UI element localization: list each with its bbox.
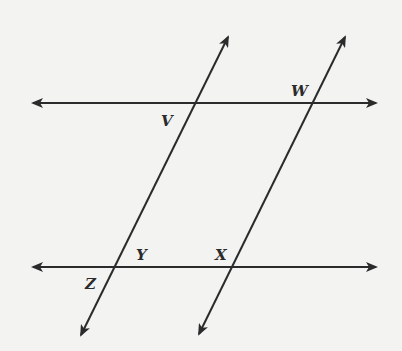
point-label-y: Y (136, 246, 148, 264)
left-transversal-line (81, 37, 228, 335)
point-label-x: X (214, 246, 228, 264)
point-label-v: V (161, 112, 174, 130)
point-label-w: W (291, 82, 310, 100)
right-transversal-line (199, 37, 345, 334)
parallel-lines-diagram: V W Y X Z (0, 0, 402, 351)
point-label-z: Z (84, 275, 97, 293)
